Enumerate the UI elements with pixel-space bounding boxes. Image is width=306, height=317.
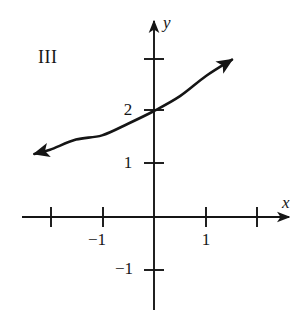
x-tick-label-1: 1	[196, 231, 216, 248]
y-tick-label-2: 2	[118, 101, 138, 118]
y-tick-label-1: 1	[118, 154, 138, 171]
x-tick-label-minus-1: −1	[83, 231, 111, 248]
x-axis-label: x	[282, 194, 290, 211]
y-tick-label-minus-1: −1	[110, 260, 138, 277]
graph-figure: y x III 2 1 −1 −1 1	[0, 0, 306, 317]
panel-label-iii: III	[38, 48, 57, 66]
y-axis-label: y	[163, 14, 171, 31]
